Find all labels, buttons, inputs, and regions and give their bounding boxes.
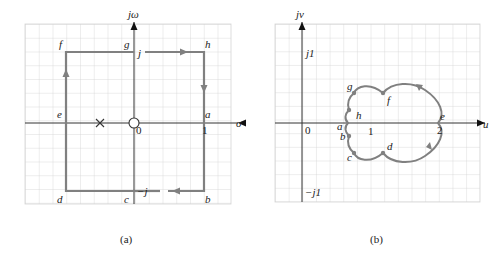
- point-b-g-label: g: [347, 80, 353, 92]
- point-d-label: d: [57, 193, 63, 205]
- point-b-b-label: b: [340, 130, 346, 142]
- panel-b-minus-j1-label: −j1: [305, 186, 321, 198]
- panel-a-sigma-label: σ: [236, 117, 242, 129]
- panel-b-one-label: 1: [368, 125, 374, 137]
- figure: jω σ 0 1 j −j a b c d e f g h (a): [0, 0, 501, 258]
- panel-b-j1-label: j1: [304, 47, 315, 59]
- panel-a-s-plane: jω σ 0 1 j −j a b c d e f g h (a): [25, 8, 246, 246]
- point-b-e-label: e: [440, 110, 445, 122]
- panel-a-jw-label: jω: [126, 8, 139, 20]
- panel-b-jv-label: jv: [294, 8, 304, 20]
- point-b-h-label: h: [356, 109, 362, 121]
- point-b-label: b: [205, 193, 211, 205]
- point-g-label: g: [124, 38, 130, 50]
- panel-b-caption: (b): [370, 233, 383, 246]
- point-h-label: h: [205, 38, 211, 50]
- panel-b-w-plane: jv u 0 1 2 j1 −j1 a b c d e f g h (b): [275, 8, 489, 246]
- panel-a-origin-label: 0: [136, 124, 142, 136]
- panel-b-u-label: u: [483, 118, 489, 130]
- panel-a-one-label: 1: [202, 124, 208, 136]
- panel-b-two-label: 2: [437, 124, 443, 136]
- panel-a-caption: (a): [120, 233, 133, 246]
- point-c-label: c: [124, 193, 129, 205]
- panel-a-minus-j-label: −j: [137, 185, 147, 197]
- panel-b-origin-label: 0: [305, 124, 311, 136]
- point-e-label: e: [57, 108, 62, 120]
- point-b-c-label: c: [347, 151, 352, 163]
- point-a-label: a: [205, 108, 211, 120]
- point-b-d-label: d: [387, 140, 393, 152]
